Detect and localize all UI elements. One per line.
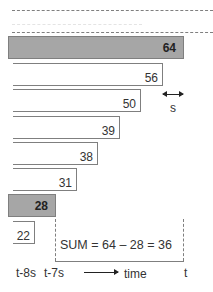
bar-38: 38 <box>13 142 98 165</box>
step-double-arrow-icon <box>163 94 183 95</box>
bar-value: 64 <box>163 42 176 54</box>
window-bottom-line <box>55 261 184 262</box>
bar-value: 39 <box>102 125 115 137</box>
axis-label-t: t <box>184 267 187 279</box>
bar-50: 50 <box>13 89 141 112</box>
sum-label: SUM = 64 – 28 = 36 <box>60 239 172 252</box>
step-label: s <box>170 102 176 114</box>
bar-39: 39 <box>13 116 120 139</box>
bar-value: 56 <box>145 72 158 84</box>
bar-56: 56 <box>13 63 163 86</box>
bar-value: 31 <box>59 177 72 189</box>
time-arrow-icon <box>84 272 118 273</box>
bar-28: 28 <box>8 194 56 217</box>
window-left-dashed-line <box>55 219 56 261</box>
bar-value: 28 <box>35 200 48 212</box>
axis-label-time: time <box>124 268 147 280</box>
bar-64: 64 <box>8 36 184 59</box>
bar-value: 22 <box>17 230 30 242</box>
bar-31: 31 <box>13 168 77 191</box>
upper-dashed-line <box>12 32 213 33</box>
faint-dashed-line <box>12 24 142 25</box>
bar-22: 22 <box>13 221 35 244</box>
axis-label-t-8s: t-8s <box>16 267 36 279</box>
window-right-dashed-line <box>183 219 184 261</box>
top-dashed-line <box>12 10 213 11</box>
bar-value: 38 <box>80 151 93 163</box>
axis-label-t-7s: t-7s <box>44 267 64 279</box>
bar-value: 50 <box>123 98 136 110</box>
